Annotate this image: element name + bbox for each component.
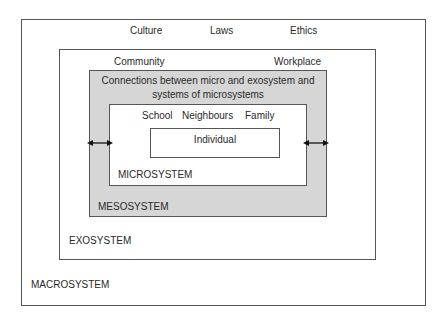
left-double-arrow-icon [87, 138, 113, 148]
microsystem-label: MICROSYSTEM [118, 169, 192, 181]
micro-item-neighbours: Neighbours [182, 110, 233, 122]
exo-item-community: Community [114, 56, 165, 68]
micro-item-family: Family [245, 110, 274, 122]
mesosystem-label: MESOSYSTEM [98, 201, 169, 213]
macro-item-laws: Laws [210, 25, 233, 37]
micro-item-school: School [142, 110, 173, 122]
macro-item-culture: Culture [130, 25, 162, 37]
meso-description-line1: Connections between micro and exosystem … [89, 74, 327, 88]
mesosystem-description: Connections between micro and exosystem … [89, 74, 327, 102]
right-double-arrow-icon [303, 138, 329, 148]
macrosystem-label: MACROSYSTEM [31, 279, 109, 291]
exosystem-label: EXOSYSTEM [69, 235, 131, 247]
macro-item-ethics: Ethics [290, 25, 317, 37]
individual-label: Individual [150, 134, 280, 146]
exo-item-workplace: Workplace [274, 56, 321, 68]
meso-description-line2: systems of microsystems [89, 88, 327, 102]
